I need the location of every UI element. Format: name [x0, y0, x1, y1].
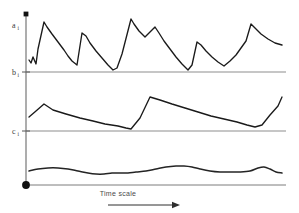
series-line-a: [29, 19, 282, 70]
axis-label-a: a: [12, 21, 16, 30]
axis-label-b-subscript: i: [18, 72, 20, 78]
time-scale-arrow-head: [172, 202, 180, 208]
axis-label-b: b: [12, 68, 16, 77]
axis-label-a-subscript: i: [18, 25, 20, 31]
series-line-c: [29, 166, 282, 174]
figure-canvas: a i b i c i Time scale: [0, 0, 299, 213]
time-scale-label: Time scale: [100, 190, 137, 197]
axis-label-c: c: [12, 127, 16, 136]
axis-top-cap: [24, 12, 29, 17]
series-line-b: [29, 97, 282, 129]
time-series-figure: a i b i c i Time scale: [0, 0, 299, 213]
axis-label-c-subscript: i: [18, 131, 20, 137]
origin-dot: [22, 181, 30, 189]
